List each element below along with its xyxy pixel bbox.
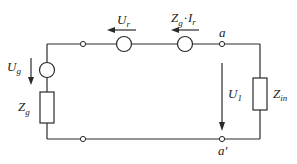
terminal-bottom-left-icon bbox=[80, 136, 85, 141]
label-ug: Ug bbox=[7, 59, 21, 76]
label-zg-ir: Zg·Ir bbox=[171, 10, 196, 28]
label-ur: Ur bbox=[117, 12, 130, 29]
label-node-a: a bbox=[219, 25, 226, 40]
terminal-top-left-icon bbox=[80, 41, 85, 46]
arrow-ur-icon bbox=[107, 27, 136, 33]
source-ur-icon bbox=[117, 37, 132, 52]
source-zg-ir-icon bbox=[178, 37, 193, 52]
resistor-zin-icon bbox=[253, 78, 267, 110]
terminal-a-prime-icon bbox=[219, 136, 224, 141]
resistor-zg-icon bbox=[40, 92, 54, 123]
terminal-a-icon bbox=[219, 41, 224, 46]
circuit-diagram: Ug Zg Ur Zg·Ir a a' U1 Zin bbox=[0, 0, 297, 164]
label-node-a-prime: a' bbox=[218, 143, 228, 158]
arrow-zg-ir-icon bbox=[171, 27, 199, 33]
arrow-ug-icon bbox=[28, 58, 34, 85]
label-zin: Zin bbox=[273, 86, 288, 103]
arrow-u1-icon bbox=[219, 63, 225, 131]
label-zg: Zg bbox=[18, 99, 30, 117]
source-ug-icon bbox=[40, 63, 55, 78]
label-u1: U1 bbox=[228, 86, 242, 103]
